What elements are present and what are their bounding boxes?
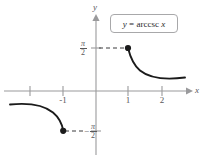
- x-axis-arrowhead: [186, 87, 193, 94]
- equation-argument: x: [159, 19, 165, 29]
- equation-equals: =: [127, 19, 137, 29]
- equation-function-name: arccsc: [136, 19, 158, 29]
- neg-pi-over-2-numerator: π: [90, 123, 96, 131]
- y-axis-label: y: [93, 3, 97, 12]
- y-axis-arrowhead: [92, 14, 99, 21]
- equation-label-box: y = arccsc x: [110, 14, 178, 33]
- arccsc-graph-figure: y x -1 1 2 π 2 − π 2 y = arccsc x: [0, 0, 205, 158]
- neg-pi-over-2-denominator: 2: [90, 132, 96, 140]
- pi-over-2-fraction: π 2: [80, 40, 87, 58]
- y-tick-label-pi-over-2: π 2: [79, 40, 87, 58]
- pi-over-2-numerator: π: [80, 40, 86, 48]
- endpoint-dot-upper: [125, 45, 131, 51]
- equation-label-text: y = arccsc x: [123, 19, 165, 29]
- curve-upper-branch: [128, 48, 185, 79]
- neg-pi-over-2-fraction: π 2: [90, 123, 97, 141]
- pi-over-2-denominator: 2: [80, 49, 86, 57]
- x-tick-label-1: 1: [123, 96, 133, 105]
- curve-lower-branch: [10, 104, 63, 131]
- endpoint-dot-lower: [60, 128, 66, 134]
- y-tick-label-neg-pi-over-2: − π 2: [84, 123, 97, 141]
- neg-pi-over-2-sign: −: [84, 127, 89, 136]
- x-axis-label: x: [195, 86, 199, 95]
- x-tick-label-2: 2: [157, 96, 167, 105]
- x-tick-label-minus1: -1: [55, 96, 71, 105]
